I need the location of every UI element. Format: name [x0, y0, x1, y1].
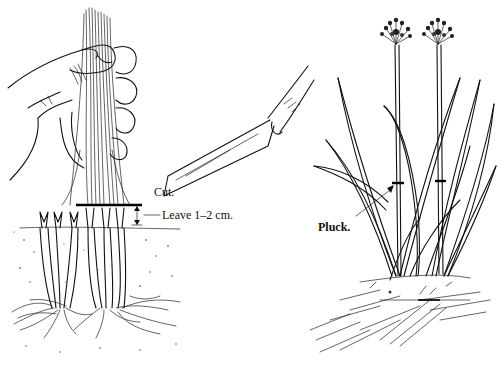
hand-drawing: [8, 45, 137, 180]
plant-leaves: [314, 78, 496, 280]
ground-hatching: [310, 275, 490, 352]
roots: [12, 296, 180, 338]
leaf-stubs: [40, 208, 124, 228]
leave-length-label: Leave 1–2 cm.: [162, 209, 233, 221]
soil-surface: [20, 227, 180, 229]
flower-heads: [380, 18, 454, 44]
illustration-drawing: [0, 0, 504, 366]
pluck-label: Pluck.: [318, 221, 350, 233]
stems-below-ground: [40, 228, 126, 308]
leaf-bundle: [62, 8, 130, 205]
knife-drawing: [164, 66, 314, 196]
dimension-marker: [132, 206, 160, 225]
harvest-illustration: Cut. Leave 1–2 cm. Pluck.: [0, 0, 504, 366]
cut-label: Cut.: [154, 186, 174, 198]
